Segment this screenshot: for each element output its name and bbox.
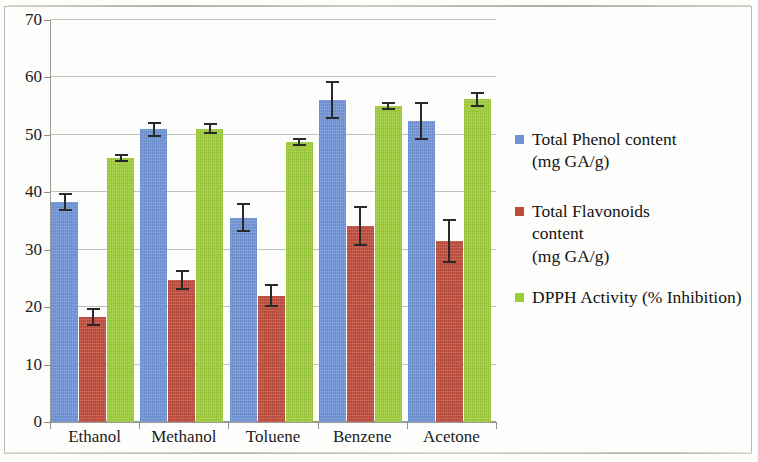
bar-acetone-series-3 <box>464 99 491 422</box>
legend-label-line: DPPH Activity (% Inhibition) <box>532 286 742 308</box>
error-bar-cap-top <box>326 81 339 83</box>
legend-entry-2[interactable]: Total Flavonoidscontent(mg GA/g) <box>515 200 650 267</box>
error-bar-cap-top <box>415 102 428 104</box>
error-bar-cap-top <box>176 270 189 272</box>
bar-toluene-series-3 <box>286 142 313 422</box>
y-tick-label-50: 50 <box>8 126 42 143</box>
legend-entry-3[interactable]: DPPH Activity (% Inhibition) <box>515 286 742 308</box>
x-axis-line <box>50 422 496 423</box>
bar-methanol-series-3 <box>196 129 223 422</box>
bar-group-ethanol <box>51 20 134 422</box>
y-tick-30 <box>44 250 51 251</box>
error-bar-cap-top <box>148 122 161 124</box>
error-bar-cap-top <box>443 219 456 221</box>
bar-benzene-series-3 <box>375 106 402 422</box>
y-tick-60 <box>44 77 51 78</box>
legend-label-1: Total Phenol content(mg GA/g) <box>532 128 677 173</box>
y-tick-label-70: 70 <box>8 11 42 28</box>
bar-acetone-series-1 <box>408 121 435 422</box>
bar-methanol-series-2 <box>168 280 195 422</box>
y-axis-line <box>50 20 51 422</box>
y-tick-label-20: 20 <box>8 298 42 315</box>
bar-group-methanol <box>140 20 223 422</box>
bar-methanol-series-1 <box>140 129 167 422</box>
x-tick-label-ethanol: Ethanol <box>50 428 139 445</box>
scan-artifact-top <box>8 5 750 7</box>
legend-label-line: (mg GA/g) <box>532 245 650 267</box>
bar-toluene-series-1 <box>230 218 257 422</box>
legend-label-2: Total Flavonoidscontent(mg GA/g) <box>532 200 650 267</box>
scan-artifact-bottom <box>6 452 752 454</box>
bar-group-toluene <box>230 20 313 422</box>
bar-benzene-series-2 <box>347 226 374 422</box>
error-bar-cap-top <box>354 206 367 208</box>
bar-ethanol-series-2 <box>79 317 106 422</box>
error-bar-cap-top <box>59 193 72 195</box>
y-tick-50 <box>44 135 51 136</box>
error-bar-cap-top <box>293 138 306 140</box>
legend-entry-1[interactable]: Total Phenol content(mg GA/g) <box>515 128 677 173</box>
bar-chart-figure: 010203040506070 EthanolMethanolTolueneBe… <box>0 0 758 462</box>
error-bar-cap-top <box>115 154 128 156</box>
y-tick-20 <box>44 307 51 308</box>
error-bar-cap-top <box>87 308 100 310</box>
x-tick-label-benzene: Benzene <box>318 428 407 445</box>
y-tick-label-60: 60 <box>8 68 42 85</box>
bar-group-acetone <box>408 20 491 422</box>
bar-ethanol-series-3 <box>107 158 134 422</box>
x-tick-label-methanol: Methanol <box>139 428 228 445</box>
legend-label-line: Total Flavonoids <box>532 200 650 222</box>
y-tick-label-10: 10 <box>8 356 42 373</box>
legend-label-line: content <box>532 222 650 244</box>
legend-swatch-flavonoids <box>515 207 524 216</box>
y-tick-label-30: 30 <box>8 241 42 258</box>
y-tick-label-0: 0 <box>8 413 42 430</box>
legend-label-3: DPPH Activity (% Inhibition) <box>532 286 742 308</box>
y-tick-40 <box>44 192 51 193</box>
bar-group-benzene <box>319 20 402 422</box>
bar-benzene-series-1 <box>319 100 346 422</box>
bar-toluene-series-2 <box>258 296 285 422</box>
error-bar-cap-top <box>265 284 278 286</box>
legend-swatch-phenol <box>515 135 524 144</box>
y-tick-label-40: 40 <box>8 183 42 200</box>
y-tick-10 <box>44 365 51 366</box>
error-bar-cap-top <box>237 203 250 205</box>
error-bar-cap-top <box>204 123 217 125</box>
bar-ethanol-series-1 <box>51 202 78 422</box>
legend-swatch-dpph <box>515 293 524 302</box>
x-tick-5 <box>496 422 497 429</box>
bar-acetone-series-2 <box>436 241 463 422</box>
error-bar-cap-top <box>471 92 484 94</box>
legend-label-line: Total Phenol content <box>532 128 677 150</box>
error-bar-cap-top <box>382 102 395 104</box>
x-tick-label-acetone: Acetone <box>407 428 496 445</box>
plot-bars-layer <box>50 20 496 422</box>
y-axis-tick-labels: 010203040506070 <box>0 0 42 462</box>
legend-label-line: (mg GA/g) <box>532 150 677 172</box>
y-tick-70 <box>44 20 51 21</box>
x-tick-label-toluene: Toluene <box>228 428 317 445</box>
